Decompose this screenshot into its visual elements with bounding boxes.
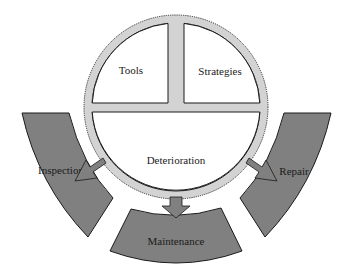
deterioration-label: Deterioration [147, 154, 206, 166]
tools-label: Tools [119, 64, 143, 76]
central-circle: Tools Strategies Deterioration [84, 15, 268, 199]
maintenance-label: Maintenance [148, 235, 205, 247]
maintenance-cycle-diagram: Inspection Repair Maintenance Tools Stra… [0, 0, 347, 279]
strategies-label: Strategies [198, 65, 241, 77]
repair-label: Repair [279, 165, 309, 177]
inspection-label: Inspection [38, 164, 84, 176]
